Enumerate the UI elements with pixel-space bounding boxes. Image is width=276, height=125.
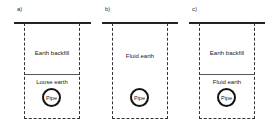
pipe-icon-c: Pipe — [217, 88, 236, 107]
earth-backfill-label-a: Earth backfill — [25, 50, 79, 56]
panel-c-label: c) — [192, 6, 197, 12]
layer-divider-a — [25, 74, 79, 75]
pipe-icon-a: Pipe — [42, 88, 61, 107]
earth-backfill-label-c: Earth backfill — [200, 50, 254, 56]
pipe-label-c: Pipe — [221, 95, 232, 101]
trench-b: Fluid earth Pipe — [112, 23, 168, 119]
layer-divider-c — [200, 74, 254, 75]
pipe-icon-b: Pipe — [130, 88, 149, 107]
loose-earth-label-a: Loose earth — [25, 79, 79, 85]
trench-c: Earth backfill Fluid earth Pipe — [199, 23, 255, 119]
pipe-label-a: Pipe — [46, 95, 57, 101]
fluid-earth-label-c: Fluid earth — [200, 79, 254, 85]
panel-a-label: a) — [17, 6, 22, 12]
pipe-label-b: Pipe — [134, 95, 145, 101]
panel-b-label: b) — [105, 6, 110, 12]
fluid-earth-label-b: Fluid earth — [113, 53, 167, 59]
trench-a: Earth backfill Loose earth Pipe — [24, 23, 80, 119]
